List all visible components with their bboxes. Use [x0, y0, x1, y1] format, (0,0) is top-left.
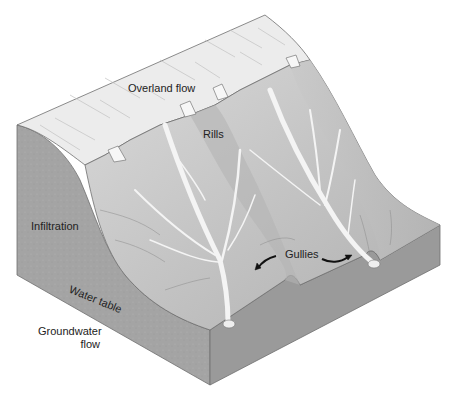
label-rills: Rills: [203, 128, 224, 141]
gully-outlet-left: [223, 320, 235, 328]
label-groundwater-flow: Groundwater flow: [38, 325, 100, 350]
gully-outlet-right: [368, 260, 380, 268]
label-groundwater-line2: flow: [38, 338, 100, 351]
label-infiltration: Infiltration: [31, 220, 79, 233]
label-gullies: Gullies: [285, 248, 319, 261]
label-groundwater-line1: Groundwater: [38, 325, 100, 338]
label-overland-flow: Overland flow: [128, 82, 195, 95]
